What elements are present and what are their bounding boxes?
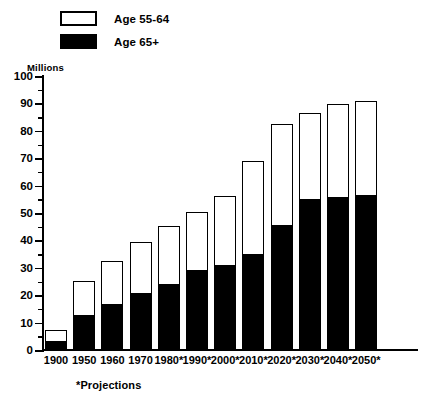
bar-2040	[327, 104, 349, 349]
bar-2020	[271, 124, 293, 349]
bar-1960	[101, 261, 123, 349]
x-label-2000: 2000*	[211, 354, 240, 366]
y-tick-label-40: 40	[20, 234, 33, 246]
bar-segment-age-65-plus	[272, 225, 292, 348]
bar-segment-age-65-plus	[243, 254, 263, 348]
y-tick-label-20: 20	[20, 289, 33, 301]
x-label-2040: 2040*	[324, 354, 353, 366]
bar-segment-age-65-plus	[74, 315, 94, 348]
y-tick-label-50: 50	[20, 207, 33, 219]
bar-segment-age-65-plus	[356, 195, 376, 348]
bar-segment-age-65-plus	[300, 199, 320, 348]
legend-swatch-age-65-plus-icon	[60, 34, 97, 49]
y-tick-label-0: 0	[27, 344, 33, 356]
legend-swatch-age-55-64-icon	[60, 11, 97, 26]
y-tick-label-10: 10	[20, 317, 33, 329]
legend-item-age-65-plus: Age 65+	[60, 33, 260, 50]
chart-legend: Age 55-64 Age 65+	[60, 10, 260, 56]
legend-label-age-55-64: Age 55-64	[114, 13, 169, 25]
bar-segment-age-65-plus	[102, 304, 122, 348]
y-tick-label-90: 90	[20, 97, 33, 109]
bar-segment-age-65-plus	[131, 293, 151, 348]
bar-1950	[73, 281, 95, 350]
x-axis-line	[42, 349, 418, 351]
legend-label-age-65-plus: Age 65+	[114, 36, 159, 48]
x-label-2050: 2050*	[352, 354, 381, 366]
x-label-1900: 1900	[44, 354, 68, 366]
x-label-1950: 1950	[72, 354, 96, 366]
chart-page: Age 55-64 Age 65+ Millions 0102030405060…	[0, 0, 422, 407]
bars-group	[42, 75, 418, 349]
y-tick-label-100: 100	[14, 70, 33, 82]
y-tick-label-80: 80	[20, 125, 33, 137]
bar-2050	[355, 101, 377, 349]
x-label-2020: 2020*	[267, 354, 296, 366]
y-tick-label-30: 30	[20, 262, 33, 274]
bar-segment-age-65-plus	[159, 284, 179, 348]
bar-1980	[158, 226, 180, 349]
legend-item-age-55-64: Age 55-64	[60, 10, 260, 27]
bar-2030	[299, 113, 321, 349]
bar-segment-age-65-plus	[187, 270, 207, 348]
bar-1970	[130, 242, 152, 349]
x-label-1970: 1970	[128, 354, 152, 366]
chart-footnote: *Projections	[76, 379, 141, 391]
x-label-1960: 1960	[100, 354, 124, 366]
bar-segment-age-65-plus	[328, 197, 348, 348]
x-label-1980: 1980*	[154, 354, 183, 366]
plot-area: 0102030405060708090100	[42, 75, 418, 351]
bar-1900	[45, 330, 67, 349]
x-axis-labels: 19001950196019701980*1990*2000*2010*2020…	[42, 354, 418, 370]
bar-2010	[242, 161, 264, 349]
x-label-2010: 2010*	[239, 354, 268, 366]
x-label-1990: 1990*	[183, 354, 212, 366]
bar-segment-age-65-plus	[46, 341, 66, 348]
y-tick-label-60: 60	[20, 180, 33, 192]
y-tick-0	[35, 350, 44, 352]
bar-1990	[186, 212, 208, 349]
y-tick-label-70: 70	[20, 152, 33, 164]
x-label-2030: 2030*	[295, 354, 324, 366]
bar-segment-age-65-plus	[215, 265, 235, 348]
bar-2000	[214, 196, 236, 349]
